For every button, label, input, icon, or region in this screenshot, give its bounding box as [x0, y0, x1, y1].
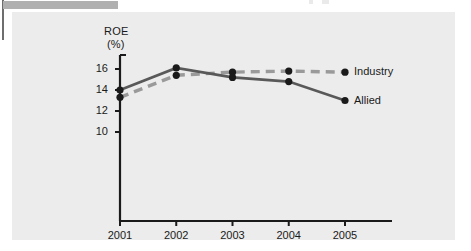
x-axis-tick-label: 2004 — [269, 229, 309, 241]
y-axis-tick-label: 12 — [86, 104, 108, 116]
data-point-allied — [229, 74, 236, 81]
data-point-industry — [173, 72, 180, 79]
y-axis-tick-label: 14 — [86, 83, 108, 95]
chart-panel: ROE (%) 1012141620012002200320042005Indu… — [12, 12, 455, 240]
data-point-allied — [285, 78, 292, 85]
data-point-allied — [116, 86, 123, 93]
x-axis-tick-label: 2003 — [213, 229, 253, 241]
data-point-allied — [341, 97, 348, 104]
line-chart-plot — [12, 12, 455, 240]
legend-label-allied: Allied — [354, 94, 381, 106]
data-point-industry — [341, 69, 348, 76]
top-text-artifact — [322, 0, 329, 4]
legend-label-industry: Industry — [354, 65, 393, 77]
x-axis-tick-label: 2001 — [100, 229, 140, 241]
chart-page: ROE (%) 1012141620012002200320042005Indu… — [0, 0, 471, 251]
x-axis-tick-label: 2005 — [325, 229, 365, 241]
data-point-allied — [173, 64, 180, 71]
top-text-artifact — [309, 0, 313, 4]
y-axis-tick-label: 16 — [86, 62, 108, 74]
data-point-industry — [285, 68, 292, 75]
x-axis-tick-label: 2002 — [156, 229, 196, 241]
header-redaction-bar — [3, 1, 118, 9]
y-axis-tick-label: 10 — [86, 125, 108, 137]
data-point-industry — [116, 94, 123, 101]
